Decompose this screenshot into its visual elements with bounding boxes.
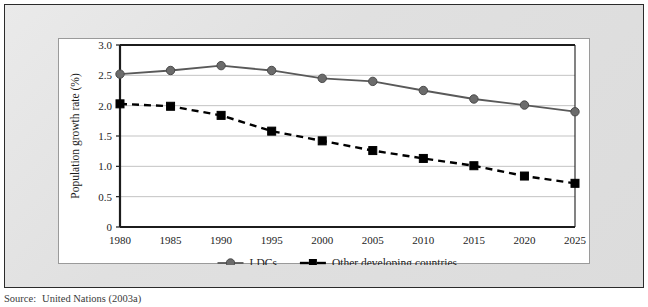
gridlines [120, 75, 575, 196]
x-tick-label: 1995 [261, 234, 284, 246]
chart-legend: LDCsOther developing countries [218, 257, 458, 265]
source-citation: United Nations (2003a) [42, 293, 141, 304]
y-tick-label: 2.0 [98, 100, 112, 112]
data-point-marker [571, 108, 579, 116]
data-point-marker [318, 137, 326, 145]
data-point-marker [116, 70, 124, 78]
y-tick-label: 2.5 [98, 69, 112, 81]
y-tick-label: 1.0 [98, 160, 112, 172]
x-tick-label: 2020 [513, 234, 536, 246]
x-tick-label: 2005 [362, 234, 385, 246]
data-point-marker [268, 127, 276, 135]
legend-marker-other [309, 259, 317, 265]
data-point-marker [267, 66, 275, 74]
data-point-marker [369, 77, 377, 85]
y-axis-title-text: Population growth rate (%) [69, 73, 82, 199]
chart-panel: 00.51.01.52.02.53.0 19801985199019952000… [58, 38, 590, 264]
x-tick-label: 2025 [564, 234, 587, 246]
figure-frame: 00.51.01.52.02.53.0 19801985199019952000… [4, 4, 644, 288]
data-point-marker [520, 101, 528, 109]
data-point-marker [470, 95, 478, 103]
y-tick-label: 0 [107, 221, 113, 233]
line-chart: 00.51.01.52.02.53.0 19801985199019952000… [59, 39, 591, 265]
data-point-marker [167, 102, 175, 110]
x-axis-ticks: 1980198519901995200020052010201520202025 [109, 234, 587, 246]
figure-root: 00.51.01.52.02.53.0 19801985199019952000… [0, 0, 648, 307]
series-line-2 [120, 104, 575, 183]
x-tick-label: 1990 [210, 234, 233, 246]
data-point-marker [369, 147, 377, 155]
data-point-marker [166, 66, 174, 74]
y-tick-label: 1.5 [98, 130, 112, 142]
data-point-marker [470, 162, 478, 170]
data-series [116, 61, 579, 187]
data-point-marker [419, 154, 427, 162]
x-tick-label: 2010 [412, 234, 435, 246]
y-axis-ticks: 00.51.01.52.02.53.0 [98, 39, 120, 233]
y-tick-label: 0.5 [98, 191, 112, 203]
data-point-marker [116, 100, 124, 108]
data-point-marker [520, 172, 528, 180]
x-tick-label: 1980 [109, 234, 132, 246]
legend-label-other: Other developing countries [332, 257, 458, 265]
data-point-marker [217, 111, 225, 119]
data-point-marker [318, 74, 326, 82]
x-tick-label: 2015 [463, 234, 486, 246]
y-tick-label: 3.0 [98, 39, 112, 51]
source-note: Source:United Nations (2003a) [4, 293, 404, 304]
x-tick-label: 2000 [311, 234, 334, 246]
data-point-marker [217, 61, 225, 69]
legend-label-ldcs: LDCs [250, 257, 278, 265]
x-tick-label: 1985 [160, 234, 183, 246]
source-label: Source: [4, 293, 36, 304]
y-axis-title: Population growth rate (%) [69, 73, 82, 199]
series-line-1 [120, 66, 575, 112]
legend-marker-ldcs [226, 259, 234, 265]
data-point-marker [571, 179, 579, 187]
data-point-marker [419, 86, 427, 94]
